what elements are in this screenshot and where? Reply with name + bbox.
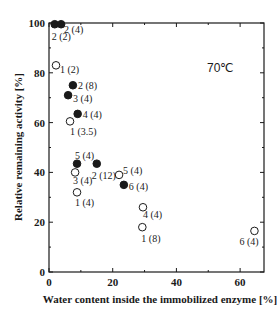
filled-circle-marker <box>74 110 82 118</box>
point-label: 6 (4) <box>239 236 258 248</box>
x-tick-label: 60 <box>235 276 247 288</box>
y-tick-label: 60 <box>34 117 46 129</box>
filled-circle-marker <box>69 81 77 89</box>
filled-circle-marker <box>64 91 72 99</box>
filled-circle-marker <box>73 160 81 168</box>
open-circle-marker <box>115 171 123 179</box>
point-label: 3 (4) <box>73 93 92 105</box>
point-label: 4 (4) <box>83 109 102 121</box>
point-label: 5 (4) <box>75 150 94 162</box>
filled-circle-marker <box>120 181 128 189</box>
point-label: 2 (8) <box>78 80 97 92</box>
open-circle-marker <box>73 189 81 197</box>
x-axis-title: Water content inside the immobilized enz… <box>43 293 277 305</box>
point-label: 1 (8) <box>141 233 160 245</box>
temperature-annotation: 70℃ <box>207 61 233 75</box>
point-label: 6 (4) <box>129 181 148 193</box>
point-label: 5 (4) <box>123 165 142 177</box>
open-circle-marker <box>66 118 74 126</box>
y-tick-label: 80 <box>34 67 46 79</box>
x-tick-label: 20 <box>107 276 119 288</box>
y-tick-label: 100 <box>29 17 46 29</box>
scatter-chart: 0204060020406080100 2 (2)2 (4)2 (8)3 (4)… <box>0 0 280 318</box>
point-label: 4 (4) <box>143 209 162 221</box>
y-tick-label: 0 <box>40 266 46 278</box>
x-tick-label: 40 <box>171 276 183 288</box>
point-label: 1 (4) <box>75 197 94 209</box>
x-tick-label: 0 <box>46 276 52 288</box>
y-tick-label: 40 <box>34 166 46 178</box>
point-label: 2 (12) <box>92 170 116 182</box>
point-label: 3 (4) <box>73 175 92 187</box>
point-label: 2 (4) <box>64 24 83 36</box>
open-circle-marker <box>139 223 147 231</box>
point-label: 1 (3.5) <box>70 126 97 138</box>
open-circle-marker <box>52 62 60 70</box>
y-tick-label: 20 <box>34 216 46 228</box>
y-axis-title: Relative remaining activity [%] <box>12 73 24 221</box>
open-circle-marker <box>251 227 259 235</box>
filled-circle-marker <box>93 160 101 168</box>
point-label: 1 (2) <box>60 64 79 76</box>
